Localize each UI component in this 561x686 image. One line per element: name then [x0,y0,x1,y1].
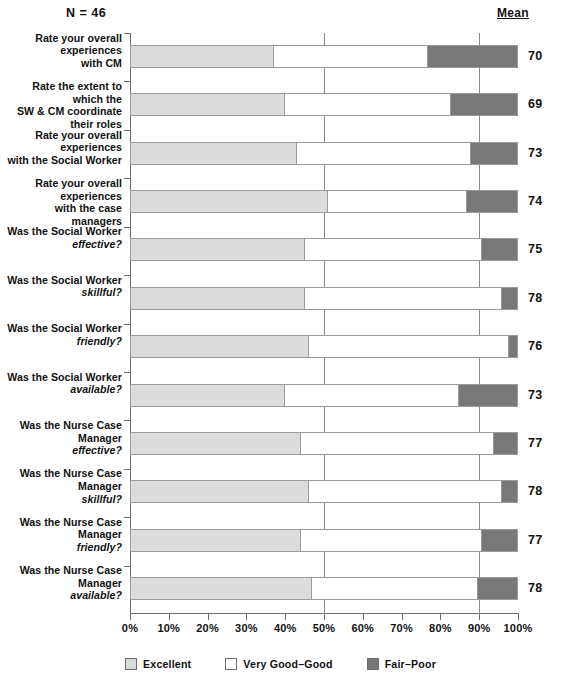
bar-segment-fair-poor[interactable] [459,385,517,406]
x-tick-label: 100% [504,622,533,634]
category-label: Was the Nurse Case Managereffective? [2,419,122,457]
category-label-line1: Was the Social Worker [2,322,122,335]
bar-segment-very-good-good[interactable] [312,578,478,599]
bar-segment-fair-poor[interactable] [478,578,517,599]
x-tick [479,614,480,620]
category-label-line2: with CM [2,57,122,70]
category-label-line1: Was the Social Worker [2,371,122,384]
chart-legend: ExcellentVery Good–GoodFair–Poor [0,658,561,670]
bar-segment-excellent[interactable] [131,191,328,212]
bar-segment-fair-poor[interactable] [509,336,517,357]
bar-segment-excellent[interactable] [131,143,297,164]
bar-segment-excellent[interactable] [131,433,301,454]
table-row[interactable] [130,238,518,261]
mean-value: 76 [528,339,542,353]
x-tick [285,614,286,620]
table-row[interactable] [130,190,518,213]
x-tick [130,614,131,620]
category-tick [124,227,130,228]
category-label-line1: Rate your overall experiences [2,32,122,57]
table-row[interactable] [130,142,518,165]
table-row[interactable] [130,335,518,358]
legend-label-excellent: Excellent [143,658,191,670]
category-tick [124,517,130,518]
category-tick [124,33,130,34]
bar-segment-fair-poor[interactable] [482,530,517,551]
x-tick-label: 90% [468,622,491,634]
x-tick-label: 10% [157,622,180,634]
bar-segment-very-good-good[interactable] [301,530,482,551]
bar-segment-very-good-good[interactable] [309,336,510,357]
bar-segment-excellent[interactable] [131,239,305,260]
bar-segment-excellent[interactable] [131,578,312,599]
bar-segment-fair-poor[interactable] [494,433,517,454]
category-label-line2: friendly? [2,541,122,554]
bar-segment-fair-poor[interactable] [428,46,517,67]
x-tick [324,614,325,620]
bar-segment-excellent[interactable] [131,46,274,67]
category-tick [124,420,130,421]
bar-segment-excellent[interactable] [131,385,285,406]
x-tick [440,614,441,620]
bar-segment-fair-poor[interactable] [467,191,517,212]
legend-item-very-good-good[interactable]: Very Good–Good [225,658,332,670]
table-row[interactable] [130,529,518,552]
category-label: Was the Social Workeravailable? [2,371,122,396]
category-tick [124,324,130,325]
x-tick-label: 80% [429,622,452,634]
bar-segment-very-good-good[interactable] [274,46,428,67]
bar-segment-fair-poor[interactable] [502,288,517,309]
bar-segment-excellent[interactable] [131,530,301,551]
table-row[interactable] [130,384,518,407]
table-row[interactable] [130,287,518,310]
bar-segment-excellent[interactable] [131,94,285,115]
legend-item-excellent[interactable]: Excellent [125,658,191,670]
category-label-line2: available? [2,589,122,602]
table-row[interactable] [130,432,518,455]
x-tick [402,614,403,620]
bar-segment-excellent[interactable] [131,481,309,502]
bar-segment-fair-poor[interactable] [451,94,517,115]
legend-label-very-good-good: Very Good–Good [243,658,332,670]
x-tick [518,614,519,620]
bar-segment-fair-poor[interactable] [502,481,517,502]
category-label: Rate your overall experienceswith CM [2,32,122,70]
category-label-line2: skillful? [2,493,122,506]
bar-segment-fair-poor[interactable] [482,239,517,260]
category-tick [124,130,130,131]
mean-value: 77 [528,533,542,547]
bar-segment-very-good-good[interactable] [285,385,459,406]
bar-segment-very-good-good[interactable] [305,239,483,260]
mean-value: 73 [528,146,542,160]
category-label-line2: skillful? [2,286,122,299]
x-tick [208,614,209,620]
table-row[interactable] [130,45,518,68]
bar-segment-very-good-good[interactable] [305,288,502,309]
legend-swatch-excellent [125,658,137,670]
category-label-line1: Was the Nurse Case Manager [2,467,122,492]
bar-segment-fair-poor[interactable] [471,143,517,164]
bar-segment-excellent[interactable] [131,288,305,309]
table-row[interactable] [130,93,518,116]
bar-segment-very-good-good[interactable] [297,143,471,164]
bar-segment-very-good-good[interactable] [285,94,451,115]
category-label-line1: Rate the extent to which the [2,80,122,105]
category-label: Rate the extent to which theSW & CM coor… [2,80,122,130]
table-row[interactable] [130,480,518,503]
x-tick-label: 60% [351,622,374,634]
mean-value: 78 [528,484,542,498]
category-label: Was the Social Workerskillful? [2,274,122,299]
category-label-line1: Rate your overall experiences [2,177,122,202]
legend-item-fair-poor[interactable]: Fair–Poor [367,658,436,670]
bar-segment-excellent[interactable] [131,336,309,357]
bar-segment-very-good-good[interactable] [328,191,467,212]
bar-segment-very-good-good[interactable] [309,481,502,502]
mean-value: 75 [528,242,542,256]
category-label: Was the Social Workerfriendly? [2,322,122,347]
category-label: Was the Nurse Case Managerfriendly? [2,516,122,554]
bar-segment-very-good-good[interactable] [301,433,494,454]
legend-label-fair-poor: Fair–Poor [385,658,436,670]
category-label-line2: with the Social Worker [2,154,122,167]
category-tick [124,178,130,179]
table-row[interactable] [130,577,518,600]
